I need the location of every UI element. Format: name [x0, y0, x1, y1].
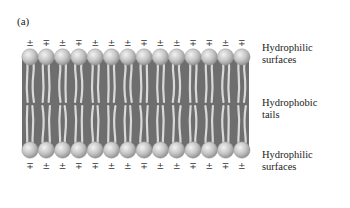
lipid-tail — [196, 62, 197, 102]
lipid-head — [136, 142, 152, 158]
lipid-tail — [130, 106, 131, 146]
lipid-tail — [179, 106, 180, 146]
lipid-tail — [75, 106, 76, 146]
lipid-tail — [163, 62, 164, 102]
label-line: Hydrophobic — [262, 97, 317, 109]
label-line: Hydrophilic — [262, 42, 313, 54]
lipid-head — [136, 49, 152, 65]
lipid-head — [54, 49, 70, 65]
lipid-tail — [130, 62, 131, 102]
lipid-head — [54, 142, 70, 158]
lipid-tail — [49, 62, 50, 102]
lipid-head — [234, 49, 250, 65]
lipid-tail — [114, 62, 115, 102]
lipid-tail — [49, 106, 50, 146]
lipid-tail — [92, 62, 93, 102]
label-line: tails — [262, 109, 317, 121]
lipid-head — [120, 142, 136, 158]
lipid-head — [22, 49, 38, 65]
lipid-tail — [140, 106, 141, 146]
lipid-tail — [179, 62, 180, 102]
lipid-tail — [222, 106, 223, 146]
lipid-head — [201, 49, 217, 65]
lipid-tail — [147, 106, 148, 146]
lipid-tail — [157, 106, 158, 146]
lipid-tail — [195, 106, 196, 146]
lipid-head — [38, 142, 54, 158]
lipid-head — [217, 49, 233, 65]
lipid-head — [71, 142, 87, 158]
lipid-tail — [92, 106, 93, 146]
lipid-tail — [173, 106, 174, 146]
lipid-head — [103, 142, 119, 158]
lipid-tail — [238, 106, 239, 146]
lipid-head — [71, 49, 87, 65]
label-line: Hydrophilic — [262, 149, 313, 161]
lipid-head — [22, 142, 38, 158]
lipid-tail — [124, 106, 125, 146]
lipid-head — [217, 142, 233, 158]
lipid-head — [87, 49, 103, 65]
lipid-tail — [33, 62, 34, 102]
label-hydrophobic: Hydrophobic tails — [262, 97, 317, 121]
lipid-tail — [157, 62, 158, 102]
lipid-tail — [190, 106, 191, 146]
lipid-head — [152, 142, 168, 158]
label-bottom-hydrophilic: Hydrophilic surfaces — [262, 149, 313, 173]
lipid-tail — [141, 62, 142, 102]
lipid-tail — [124, 62, 125, 102]
lipid-tail — [212, 106, 213, 146]
lipid-tail — [212, 62, 213, 102]
lipid-tail — [114, 106, 115, 146]
lipid-tail — [222, 62, 223, 102]
label-line: surfaces — [262, 161, 313, 173]
lipid-head — [201, 142, 217, 158]
lipid-head — [38, 49, 54, 65]
lipid-tail — [42, 106, 43, 146]
lipid-head — [152, 49, 168, 65]
lipid-head — [234, 142, 250, 158]
lipid-tail — [65, 106, 66, 146]
lipid-tail — [43, 62, 44, 102]
lipid-tail — [173, 62, 174, 102]
lipid-tail — [98, 106, 99, 146]
label-line: surfaces — [262, 54, 313, 66]
label-top-hydrophilic: Hydrophilic surfaces — [262, 42, 313, 66]
lipid-head — [120, 49, 136, 65]
lipid-head — [185, 142, 201, 158]
lipid-tail — [205, 106, 206, 146]
lipid-head — [169, 142, 185, 158]
lipid-tail — [244, 62, 245, 102]
lipid-head — [87, 142, 103, 158]
lipid-tail — [59, 106, 60, 146]
lipid-tail — [163, 106, 164, 146]
lipid-tail — [238, 62, 239, 102]
lipid-tail — [75, 62, 76, 102]
lipid-tail — [206, 62, 207, 102]
lipid-head — [169, 49, 185, 65]
lipid-head — [103, 49, 119, 65]
lipid-tail — [228, 62, 229, 102]
lipid-tail — [32, 106, 33, 146]
lipid-tail — [244, 106, 245, 146]
lipid-tail — [59, 62, 60, 102]
lipid-tail — [81, 62, 82, 102]
hydrophobic-core — [22, 59, 249, 149]
lipid-tail — [27, 62, 28, 102]
lipid-head — [185, 49, 201, 65]
lipid-tail — [98, 62, 99, 102]
